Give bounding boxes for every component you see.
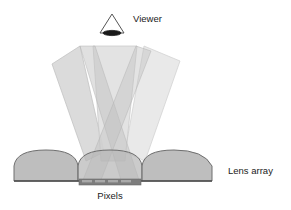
lens-array-group [14, 150, 212, 181]
pixel-cell [108, 180, 118, 182]
pixel-bar-group [79, 179, 141, 185]
viewer-label: Viewer [133, 13, 162, 24]
pixels-label: Pixels [97, 190, 123, 201]
lens-dome-center [78, 150, 142, 181]
lens-dome-left [14, 150, 78, 181]
diagram-canvas: Viewer Lens array Pixels [0, 0, 291, 210]
pixel-cell [82, 180, 92, 182]
pixel-cell [95, 180, 105, 182]
lens-array-label: Lens array [228, 165, 273, 176]
pixel-cell [121, 180, 131, 182]
viewer-eye-icon [103, 30, 121, 35]
lens-array-diagram: Viewer Lens array Pixels [0, 0, 291, 210]
